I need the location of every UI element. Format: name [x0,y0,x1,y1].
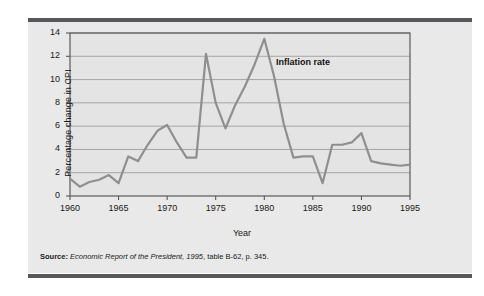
source-label: Source: [40,252,68,261]
x-tick-1975: 1975 [196,203,236,213]
x-tick-1990: 1990 [341,203,381,213]
y-tick-10: 10 [38,74,60,84]
y-tick-8: 8 [38,97,60,107]
annotation-0: Inflation rate [276,57,330,67]
y-axis-label: Percentage change in CPI [63,33,73,213]
x-tick-1980: 1980 [244,203,284,213]
x-tick-1960: 1960 [50,203,90,213]
y-tick-4: 4 [38,143,60,153]
source-rest: , table B-62, p. 345. [203,252,268,261]
y-tick-6: 6 [38,120,60,130]
x-tick-1995: 1995 [390,203,430,213]
y-tick-2: 2 [38,167,60,177]
x-tick-1965: 1965 [99,203,139,213]
y-tick-14: 14 [38,27,60,37]
source-note: Source: Economic Report of the President… [40,252,269,261]
y-tick-0: 0 [38,190,60,200]
figure-container: Percentage change in CPI Year 0246810121… [0,0,484,296]
x-axis-label: Year [0,228,484,238]
y-tick-12: 12 [38,50,60,60]
x-tick-1985: 1985 [293,203,333,213]
source-citation: Economic Report of the President, 1995 [70,252,203,261]
x-tick-1970: 1970 [147,203,187,213]
